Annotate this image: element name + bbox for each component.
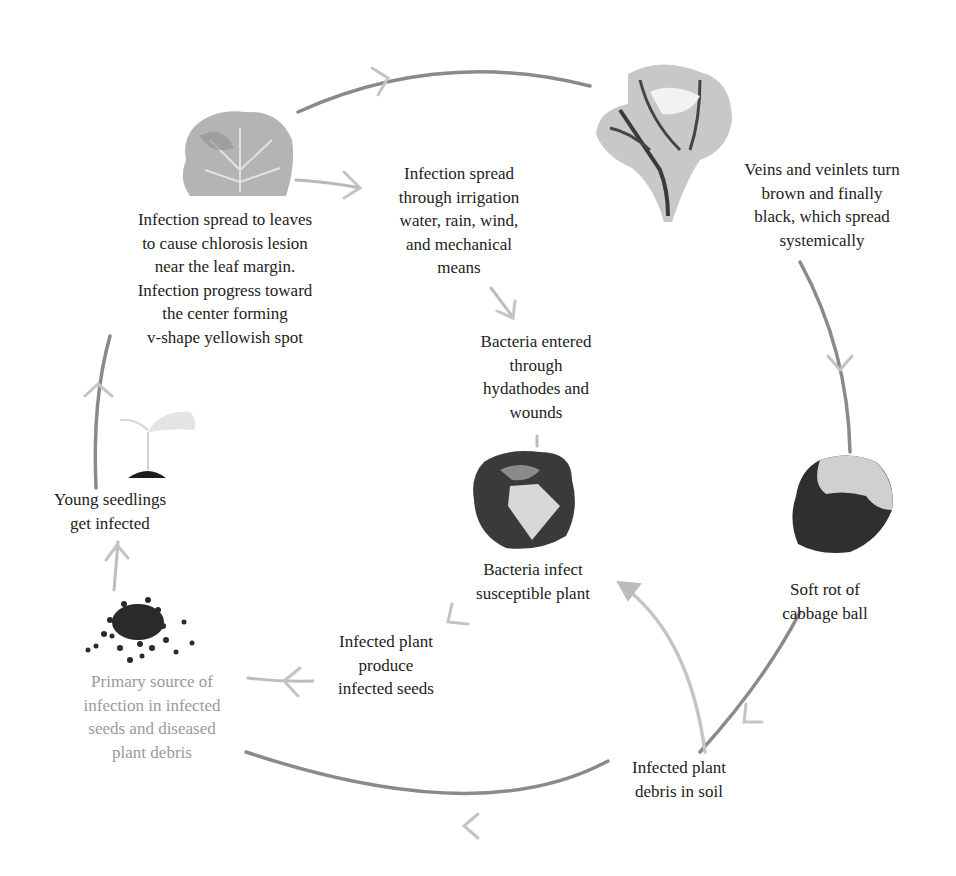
text-line: means	[372, 256, 546, 280]
label-debris-soil: Infected plant debris in soil	[604, 756, 754, 803]
arrow-debris-to-plant	[628, 590, 705, 752]
label-bacteria-entered: Bacteria entered through hydathodes and …	[456, 330, 616, 424]
text-line: debris in soil	[604, 780, 754, 804]
text-line: get infected	[40, 512, 180, 536]
text-line: Soft rot of	[760, 578, 890, 602]
arrow-bottom-arc	[246, 752, 608, 793]
text-line: Infection progress toward	[100, 279, 350, 303]
arrow-leaf-to-spread	[296, 180, 360, 188]
leaf-icon	[183, 111, 293, 196]
text-line: hydathodes and	[456, 377, 616, 401]
rotten-cabbage-icon	[792, 455, 892, 553]
text-line: the center forming	[100, 302, 350, 326]
text-line: v-shape yellowish spot	[100, 326, 350, 350]
text-line: wounds	[456, 401, 616, 425]
arrow-seeds-to-source	[248, 678, 313, 681]
label-spread-means: Infection spread through irrigation wate…	[372, 162, 546, 280]
arrow-right-arc	[800, 262, 850, 452]
text-line: through	[456, 354, 616, 378]
text-line: cabbage ball	[760, 602, 890, 626]
text-line: plant debris	[62, 741, 242, 765]
label-infected-seeds: Infected plant produce infected seeds	[314, 630, 458, 701]
disease-cycle-diagram: Infection spread to leaves to cause chlo…	[0, 0, 956, 876]
text-line: Infected plant	[604, 756, 754, 780]
text-line: Infection spread to leaves	[100, 208, 350, 232]
label-primary-source: Primary source of infection in infected …	[62, 670, 242, 764]
text-line: Infected plant	[314, 630, 458, 654]
arrowhead-top-icon	[372, 68, 388, 95]
arrow-rot-to-debris	[700, 612, 800, 752]
text-line: through irrigation	[372, 186, 546, 210]
text-line: Bacteria entered	[456, 330, 616, 354]
arrow-top-arc	[298, 72, 590, 112]
text-line: and mechanical	[372, 233, 546, 257]
text-line: susceptible plant	[450, 582, 616, 606]
text-line: infected seeds	[314, 677, 458, 701]
text-line: produce	[314, 654, 458, 678]
text-line: black, which spread	[712, 205, 932, 229]
text-line: systemically	[712, 229, 932, 253]
label-young-seedlings: Young seedlings get infected	[40, 488, 180, 535]
text-line: Young seedlings	[40, 488, 180, 512]
seeds-icon	[86, 597, 195, 663]
label-soft-rot: Soft rot of cabbage ball	[760, 578, 890, 625]
label-veins-black: Veins and veinlets turn brown and finall…	[712, 158, 932, 252]
label-leaf-chlorosis: Infection spread to leaves to cause chlo…	[100, 208, 350, 349]
label-bacteria-infect: Bacteria infect susceptible plant	[450, 558, 616, 605]
text-line: Bacteria infect	[450, 558, 616, 582]
text-line: to cause chlorosis lesion	[100, 232, 350, 256]
infected-cabbage-icon	[473, 451, 575, 549]
arrowhead-bottom-icon	[464, 814, 478, 838]
seedling-icon	[120, 412, 195, 478]
text-line: near the leaf margin.	[100, 255, 350, 279]
text-line: infection in infected	[62, 694, 242, 718]
text-line: brown and finally	[712, 182, 932, 206]
text-line: Veins and veinlets turn	[712, 158, 932, 182]
arrow-left-arc	[95, 336, 110, 488]
arrowhead-seeds-icon	[448, 604, 468, 624]
text-line: seeds and diseased	[62, 717, 242, 741]
arrowhead-debris-icon	[744, 704, 762, 722]
text-line: Primary source of	[62, 670, 242, 694]
text-line: water, rain, wind,	[372, 209, 546, 233]
text-line: Infection spread	[372, 162, 546, 186]
